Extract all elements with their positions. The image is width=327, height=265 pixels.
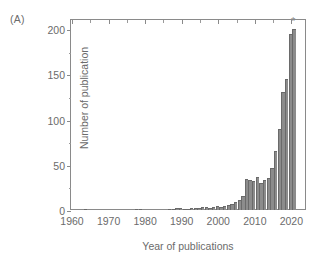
bars-container bbox=[71, 20, 305, 210]
y-axis-tick-label: 50 bbox=[31, 160, 71, 172]
histogram-bar bbox=[139, 209, 142, 210]
histogram-bar bbox=[84, 209, 87, 210]
y-axis-tick-label: 200 bbox=[31, 24, 71, 36]
x-axis-title: Year of publications bbox=[70, 240, 306, 252]
partial-year-asterisk-marker: * bbox=[291, 16, 295, 27]
y-axis-tick-label: 150 bbox=[31, 69, 71, 81]
x-axis-tick-label: 2020 bbox=[268, 209, 314, 227]
y-axis-tick-label: 100 bbox=[31, 115, 71, 127]
figure-panel-a: (A) * - upto October 29, 2021 Number of … bbox=[0, 0, 327, 265]
panel-label: (A) bbox=[10, 13, 25, 25]
histogram-bar bbox=[292, 29, 295, 210]
